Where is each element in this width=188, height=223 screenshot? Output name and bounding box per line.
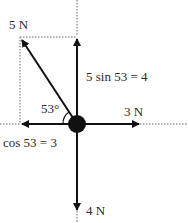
label-4n: 4 N — [86, 204, 105, 217]
label-3n: 3 N — [124, 105, 143, 118]
force-diagram-svg — [0, 0, 188, 223]
body-dot — [68, 115, 86, 133]
label-angle: 53° — [41, 102, 59, 115]
dotted-guides — [0, 0, 188, 223]
angle-arc — [63, 112, 69, 124]
force-diagram: 5 N 5 sin 53 = 4 53° 3 N cos 53 = 3 4 N — [0, 0, 188, 223]
label-5n: 5 N — [9, 18, 28, 31]
label-vertical-component: 5 sin 53 = 4 — [86, 70, 148, 83]
label-horizontal-component: cos 53 = 3 — [3, 136, 57, 149]
